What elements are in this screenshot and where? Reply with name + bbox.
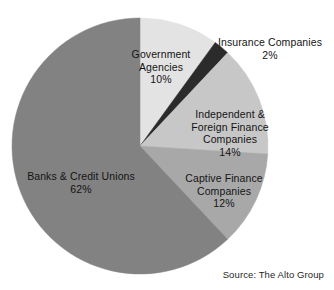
pie-chart-canvas [0, 0, 334, 290]
pie-chart-figure: Government Agencies 10% Insurance Compan… [0, 0, 334, 290]
source-attribution: Source: The Alto Group [223, 269, 324, 280]
pie-slice-group [12, 18, 268, 274]
